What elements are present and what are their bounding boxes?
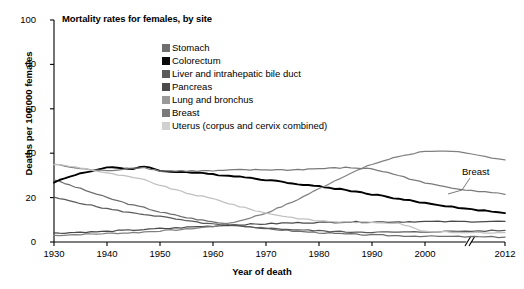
axes — [50, 20, 505, 246]
annotation-leader-line — [448, 178, 470, 194]
plot-area — [0, 0, 524, 289]
series-lines — [54, 151, 505, 237]
mortality-rates-chart: Mortality rates for females, by site Dea… — [0, 0, 524, 289]
